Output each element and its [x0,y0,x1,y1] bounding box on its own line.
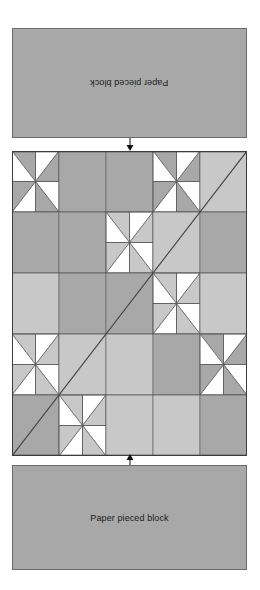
quilt-cell-solid [153,395,200,456]
quilt-cell-solid [153,334,200,395]
quilt-cell-solid [106,395,153,456]
quilt-block-diagram [12,151,247,456]
quilt-cell-solid [106,334,153,395]
diagram-page: Paper pieced block Paper pieced block [0,0,260,590]
quilt-cell-solid [59,273,106,334]
bottom-note-label: Paper pieced block [90,513,168,523]
arrow-down-icon [0,138,260,152]
quilt-cell-solid [200,212,247,273]
quilt-cell-solid [200,273,247,334]
quilt-cell-solid [12,212,59,273]
bottom-note-box: Paper pieced block [12,465,247,570]
quilt-cell-solid [106,151,153,212]
quilt-cell-solid [59,212,106,273]
quilt-cell-solid [200,395,247,456]
top-note-label: Paper pieced block [90,78,168,88]
top-note-box: Paper pieced block [12,28,247,138]
quilt-cell-solid [59,151,106,212]
quilt-svg [12,151,247,456]
quilt-cell-solid [12,273,59,334]
